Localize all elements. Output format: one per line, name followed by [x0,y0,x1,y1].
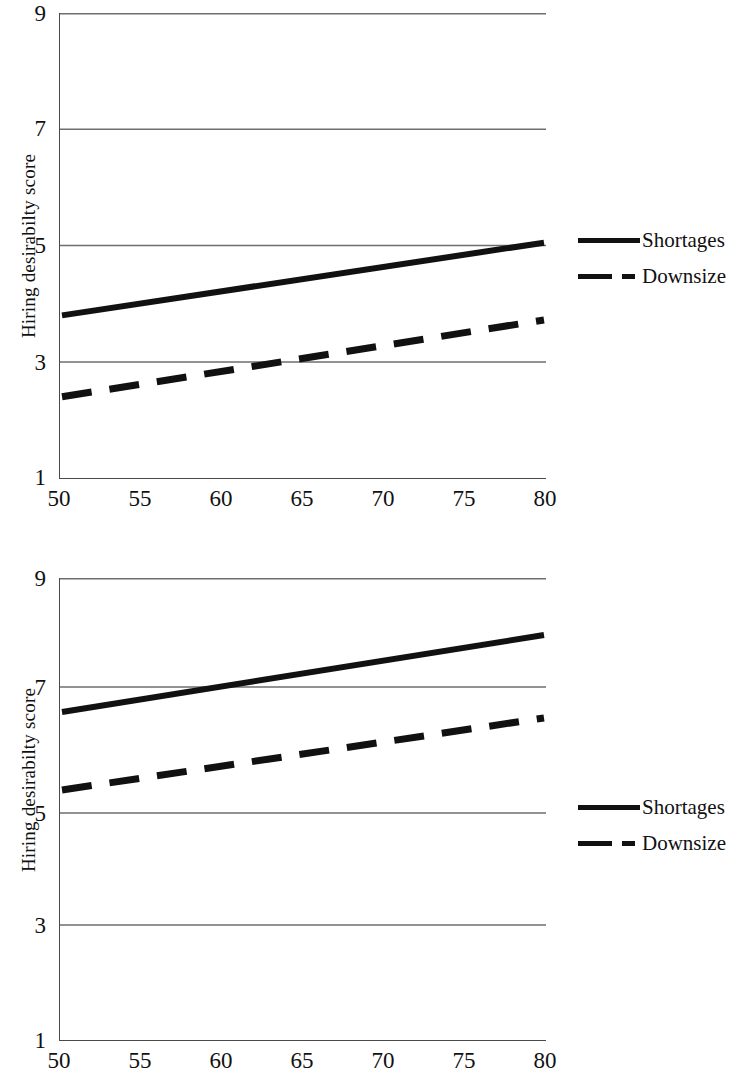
y-tick-top-3: 3 [12,351,46,374]
plot-area-top [59,13,546,479]
legend-bottom: Shortages Downsize [578,792,726,858]
series-line-downsize [62,718,544,790]
legend-item-downsize: Downsize [578,261,726,291]
x-tick-top-65: 65 [275,487,329,510]
y-tick-bottom-9: 9 [12,567,46,590]
y-tick-bottom-3: 3 [12,914,46,937]
y-tick-bottom-7: 7 [12,676,46,699]
x-tick-bottom-60: 60 [194,1049,248,1072]
legend-swatch-dashed-icon [578,270,640,282]
x-tick-top-55: 55 [113,487,167,510]
series-line-downsize [62,320,544,397]
legend-item-shortages: Shortages [578,792,726,822]
plot-svg-bottom [60,578,546,1040]
legend-label-shortages: Shortages [642,230,725,251]
chart-bottom: Hiring desirabilty score 9 7 5 3 1 50 55… [0,540,729,1083]
legend-swatch-solid-icon [578,801,640,813]
x-tick-bottom-65: 65 [275,1049,329,1072]
y-tick-top-7: 7 [12,117,46,140]
y-tick-top-5: 5 [12,234,46,257]
legend-swatch-dashed-icon [578,837,640,849]
legend-top: Shortages Downsize [578,225,726,291]
plot-svg-top [60,13,546,478]
x-tick-top-75: 75 [437,487,491,510]
x-tick-bottom-75: 75 [437,1049,491,1072]
y-tick-bottom-5: 5 [12,802,46,825]
legend-swatch-solid-icon [578,234,640,246]
x-tick-top-50: 50 [32,487,86,510]
y-tick-top-9: 9 [12,2,46,25]
x-tick-top-80: 80 [518,487,572,510]
x-tick-top-60: 60 [194,487,248,510]
legend-item-shortages: Shortages [578,225,726,255]
legend-label-downsize: Downsize [642,266,726,287]
x-tick-top-70: 70 [356,487,410,510]
plot-area-bottom [59,578,546,1041]
x-tick-bottom-50: 50 [32,1049,86,1072]
legend-item-downsize: Downsize [578,828,726,858]
series-line-shortages [62,635,544,712]
x-tick-bottom-80: 80 [518,1049,572,1072]
x-tick-bottom-55: 55 [113,1049,167,1072]
x-tick-bottom-70: 70 [356,1049,410,1072]
chart-top: Hiring desirabilty score 9 7 5 3 1 50 55… [0,0,729,540]
legend-label-downsize: Downsize [642,833,726,854]
y-tick-top-1: 1 [12,466,46,489]
series-line-shortages [62,243,544,316]
legend-label-shortages: Shortages [642,797,725,818]
